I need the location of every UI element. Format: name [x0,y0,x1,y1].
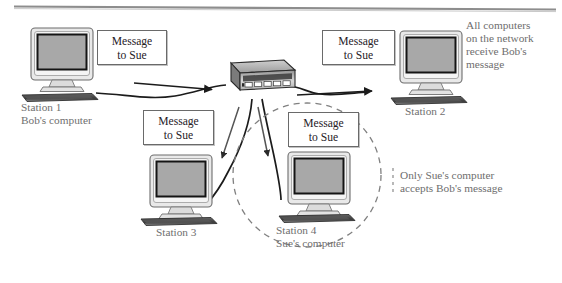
message-box-4-line1: Message [289,117,358,131]
computer-station-1 [22,28,98,102]
message-box-2-line2: to Sue [323,49,394,63]
message-box-2: Message to Sue [322,30,395,65]
station-1-label-line2: Bob's computer [21,114,92,128]
computer-station-3 [141,155,217,226]
note-broadcast-line2: on the network [466,32,534,46]
message-box-4: Message to Sue [288,112,359,147]
message-box-1-line1: Message [98,35,166,49]
arrow-bob-to-hub [134,83,212,90]
top-divider-rule [14,7,556,12]
figure-network-broadcast-diagram: Message to Sue Message to Sue Message to… [0,0,562,283]
message-box-3-line1: Message [144,115,213,129]
message-box-1: Message to Sue [97,30,167,65]
arrow-hub-to-station3 [222,107,239,158]
station-4-label-line2: Sue's computer [276,237,345,251]
station-1-label-line1: Station 1 [21,101,61,115]
message-box-3-line2: to Sue [144,129,213,143]
note-broadcast-line1: All computers [466,19,530,33]
message-box-2-line1: Message [323,35,394,49]
message-box-4-line2: to Sue [289,131,358,145]
computer-station-2 [391,31,467,105]
network-hub-icon [231,60,295,90]
message-box-1-line2: to Sue [98,49,166,63]
note-accept-line2: accepts Bob's message [400,182,502,196]
note-accept-line1: Only Sue's computer [400,169,494,183]
computer-station-4 [279,152,355,223]
station-3-label-line1: Station 3 [156,226,196,240]
message-box-3: Message to Sue [143,110,214,145]
note-broadcast-line4: message [466,58,504,72]
note-broadcast-line3: receive Bob's [466,45,527,59]
station-4-label-line1: Station 4 [276,224,316,238]
station-2-label-line1: Station 2 [405,105,445,119]
